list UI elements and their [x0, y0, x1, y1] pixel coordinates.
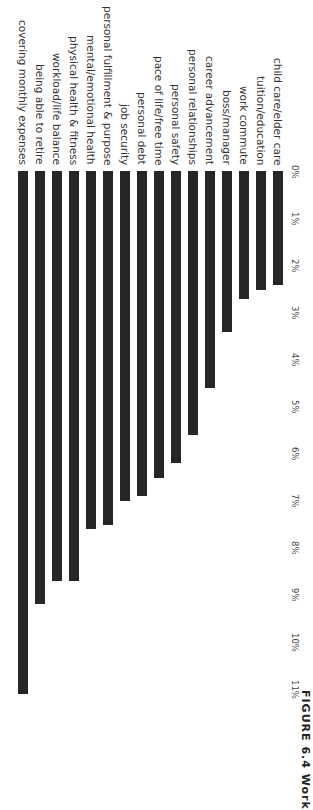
- figure-caption: FIGURE 6.4 Work: [299, 690, 312, 810]
- bar: [52, 171, 62, 581]
- axis-tick-label: 9%: [290, 588, 300, 602]
- bar: [205, 171, 215, 388]
- category-label: mental/emotional health: [85, 35, 97, 165]
- bar: [222, 171, 232, 332]
- axis-tick-label: 6%: [290, 447, 300, 461]
- axis-tick-label: 4%: [290, 353, 300, 367]
- bar: [35, 171, 45, 604]
- axis-tick-label: 7%: [290, 494, 300, 508]
- bar: [256, 171, 266, 290]
- bar: [120, 171, 130, 501]
- axis-tick-label: 1%: [290, 212, 300, 226]
- category-label: personal relationships: [187, 49, 199, 165]
- axis-tick-label: 8%: [290, 541, 300, 555]
- bar: [69, 171, 79, 581]
- category-label: personal safety: [170, 84, 182, 165]
- bar: [273, 171, 283, 285]
- category-label: covering monthly expenses: [17, 20, 29, 165]
- category-label: boss/manager: [221, 90, 233, 165]
- bar: [154, 171, 164, 478]
- category-label: child care/elder care: [272, 58, 284, 165]
- bar: [18, 171, 28, 694]
- bar: [171, 171, 181, 463]
- category-label: work commute: [238, 86, 250, 165]
- category-label: physical health & fitness: [68, 36, 80, 165]
- category-label: career advancement: [204, 56, 216, 165]
- category-label: tuition/education: [255, 76, 267, 165]
- axis-tick-label: 0%: [290, 165, 300, 179]
- category-label: personal fulfillment & purpose: [102, 6, 114, 165]
- bar: [103, 171, 113, 525]
- category-label: workload/life balance: [51, 53, 63, 165]
- category-label: pace of life/free time: [153, 56, 165, 165]
- axis-tick-label: 3%: [290, 306, 300, 320]
- category-label: being able to retire: [34, 64, 46, 165]
- axis-tick-label: 10%: [290, 633, 300, 652]
- bar: [188, 171, 198, 435]
- bar: [239, 171, 249, 299]
- axis-tick-label: 2%: [290, 259, 300, 273]
- bar: [86, 171, 96, 529]
- bar: [137, 171, 147, 496]
- axis-tick-label: 5%: [290, 400, 300, 414]
- category-label: personal debt: [136, 92, 148, 165]
- category-label: job security: [119, 104, 131, 165]
